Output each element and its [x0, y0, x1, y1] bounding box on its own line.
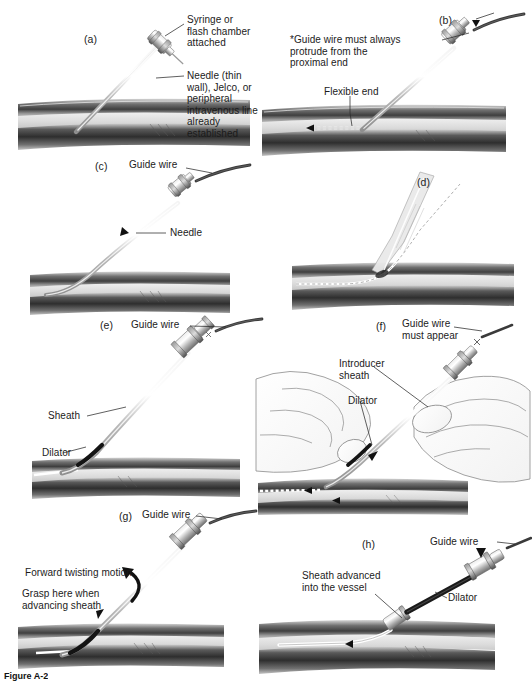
right-hand-f	[409, 376, 530, 482]
panel-a-needle-label: Needle (thin wall), Jelco, or peripheral…	[187, 70, 266, 140]
figure-caption: Figure A-2	[4, 671, 48, 682]
panel-h-dilator-label: Dilator	[448, 592, 477, 604]
panel-d-label: (d)	[417, 176, 430, 188]
tissue-vessel-f	[258, 478, 468, 515]
panel-f-guide-wire-must-appear-label: Guide wire must appear	[402, 318, 458, 341]
guide-wire-proximal-g	[210, 511, 256, 523]
panel-g-guide-wire-label: Guide wire	[142, 509, 190, 521]
panel-a-syringe-label: Syringe or flash chamber attached	[187, 14, 250, 49]
left-hand-f	[256, 371, 371, 472]
panel-e-sheath-label: Sheath	[48, 410, 80, 422]
panel-h-sheath-advanced-label: Sheath advanced into the vessel	[302, 570, 381, 593]
panel-h-label: (h)	[362, 538, 375, 550]
leader-lines-e	[63, 326, 226, 453]
guide-wire-c	[196, 165, 250, 181]
panel-e-art	[40, 315, 290, 500]
panel-f-label: (f)	[376, 320, 386, 332]
needle-hub-c	[166, 169, 197, 198]
panel-e-label: (e)	[100, 319, 113, 331]
dilator-hub-h	[464, 546, 507, 581]
panel-a-label: (a)	[84, 33, 97, 45]
sheath-hub-f	[443, 343, 481, 381]
panel-f-dilator-label: Dilator	[348, 395, 377, 407]
guide-wire-proximal-b	[472, 13, 524, 30]
panel-e-dilator-label: Dilator	[42, 447, 71, 459]
sheath-dilator-e	[62, 353, 188, 473]
panel-g-forward-twisting-label: Forward twisting motion	[25, 567, 132, 579]
panel-c-label: (c)	[95, 160, 108, 172]
panel-b-label: (b)	[439, 14, 452, 26]
panel-d-art	[300, 170, 532, 318]
panel-h-guide-wire-label: Guide wire	[430, 536, 478, 548]
panel-a: (a) Syringe or flash chamber attached Ne…	[0, 0, 266, 160]
figure-seldinger-technique: (a) Syringe or flash chamber attached Ne…	[0, 0, 532, 682]
panel-g-grasp-here-label: Grasp here when advancing sheath	[22, 588, 101, 611]
panel-c-needle-label: Needle	[170, 227, 202, 239]
panel-h-art	[265, 518, 532, 682]
panel-g: (g) Guide wire Forward twisting motion G…	[8, 505, 264, 673]
panel-g-label: (g)	[119, 510, 132, 522]
tissue-vessel-d	[292, 262, 514, 310]
panel-c-guide-wire-label: Guide wire	[129, 159, 177, 171]
guide-wire-proximal-e	[206, 319, 262, 337]
panel-f-art	[268, 315, 532, 515]
tissue-vessel-g	[18, 623, 224, 669]
panel-b-flexible-end-label: Flexible end	[324, 86, 379, 98]
guide-wire-proximal-f	[474, 325, 512, 345]
panel-f: (f) Guide wire must appear Introducer sh…	[268, 315, 532, 515]
panel-d: (d)	[300, 170, 532, 318]
tissue-vessel-e	[32, 457, 240, 499]
panel-h: (h) Guide wire Sheath advanced into the …	[265, 518, 532, 682]
panel-e-guide-wire-label: Guide wire	[131, 319, 179, 331]
tissue-vessel-h	[259, 620, 495, 674]
panel-c: (c) Guide wire Needle	[40, 155, 310, 315]
panel-b-protrude-label: *Guide wire must always protrude from th…	[290, 34, 401, 69]
panel-f-introducer-sheath-label: Introducer sheath	[339, 358, 385, 381]
panel-b-art	[266, 0, 532, 160]
panel-e: (e) Guide wire Sheath Dilator	[40, 315, 290, 500]
panel-b: (b) *Guide wire must always protrude fro…	[266, 0, 532, 160]
